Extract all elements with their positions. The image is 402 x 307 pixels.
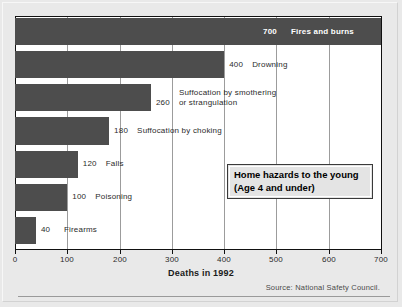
x-tick-label-700: 700 bbox=[374, 255, 388, 264]
x-tick-200 bbox=[120, 250, 121, 254]
bar-category-label: Suffocation by smothering or strangulati… bbox=[179, 88, 276, 108]
bar-category-label: Drowning bbox=[252, 60, 287, 70]
x-axis-title: Deaths in 1992 bbox=[0, 268, 402, 278]
bottom-divider bbox=[18, 296, 390, 297]
bar bbox=[15, 117, 109, 144]
x-axis-line bbox=[15, 249, 382, 250]
chart-title-line-1: Home hazards to the young bbox=[234, 169, 366, 182]
bar bbox=[15, 51, 224, 78]
bar-value-label: 700 bbox=[263, 27, 277, 36]
x-tick-label-0: 0 bbox=[13, 255, 18, 264]
bar bbox=[15, 184, 67, 211]
bar-value-label: 100 bbox=[72, 192, 86, 201]
chart-title-box: Home hazards to the young (Age 4 and und… bbox=[227, 164, 373, 199]
x-tick-600 bbox=[329, 250, 330, 254]
bar-category-label: Falls bbox=[106, 159, 124, 169]
x-tick-500 bbox=[276, 250, 277, 254]
x-tick-0 bbox=[15, 250, 16, 254]
gridline-500 bbox=[276, 17, 277, 249]
x-tick-100 bbox=[67, 250, 68, 254]
gridline-600 bbox=[329, 17, 330, 249]
x-tick-label-600: 600 bbox=[322, 255, 336, 264]
bar-value-label: 260 bbox=[156, 98, 170, 107]
bar bbox=[15, 217, 36, 244]
chart-figure: 700Fires and burns400Drowning260Suffocat… bbox=[0, 0, 402, 307]
x-tick-label-200: 200 bbox=[113, 255, 127, 264]
x-tick-400 bbox=[224, 250, 225, 254]
bar-value-label: 40 bbox=[41, 225, 50, 234]
x-tick-700 bbox=[381, 250, 382, 254]
source-note: Source: National Safety Council. bbox=[266, 283, 380, 292]
bar-value-label: 180 bbox=[114, 126, 128, 135]
x-tick-label-100: 100 bbox=[60, 255, 74, 264]
bar-category-label: Firearms bbox=[64, 225, 97, 235]
bar-value-label: 120 bbox=[83, 159, 97, 168]
bar bbox=[15, 151, 78, 178]
x-tick-label-500: 500 bbox=[269, 255, 283, 264]
chart-title-line-2: (Age 4 and under) bbox=[234, 182, 366, 195]
bar-category-label: Suffocation by choking bbox=[137, 126, 222, 136]
plot-border-right bbox=[381, 16, 382, 250]
bar-category-label: Fires and burns bbox=[291, 27, 354, 37]
bar bbox=[15, 84, 151, 111]
bar-category-label: Poisoning bbox=[95, 192, 132, 202]
x-tick-label-300: 300 bbox=[165, 255, 179, 264]
plot-border-top bbox=[15, 16, 382, 17]
x-tick-label-400: 400 bbox=[217, 255, 231, 264]
bar-value-label: 400 bbox=[229, 60, 243, 69]
x-tick-300 bbox=[172, 250, 173, 254]
gridline-400 bbox=[224, 17, 225, 249]
